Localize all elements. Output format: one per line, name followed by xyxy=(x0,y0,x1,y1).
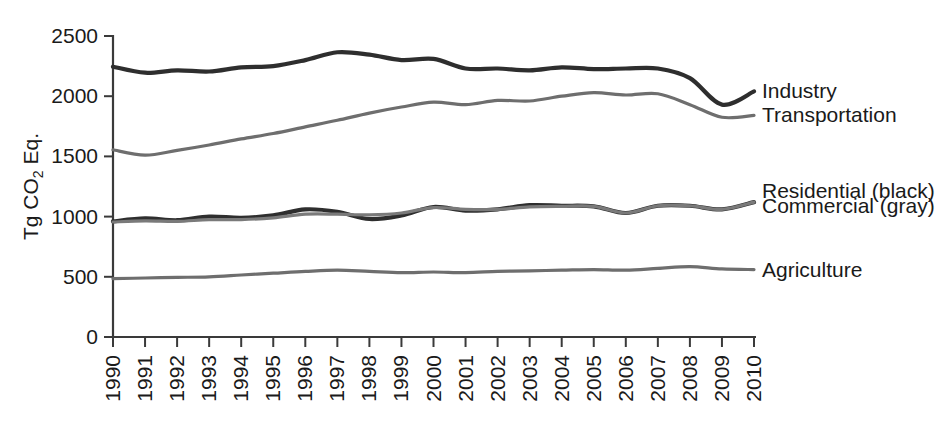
y-axis-title-suffix: Eq. xyxy=(19,133,42,170)
emissions-line-chart: 05001000150020002500 1990199119921993199… xyxy=(0,0,948,426)
series-label: Industry xyxy=(762,79,837,102)
chart-canvas: 05001000150020002500 1990199119921993199… xyxy=(0,0,948,426)
x-tick-label: 1994 xyxy=(229,355,252,402)
y-tick-label: 1000 xyxy=(51,205,98,228)
y-tick-label: 500 xyxy=(63,265,98,288)
x-tick-label: 2009 xyxy=(710,355,733,402)
series-label: Commercial (gray) xyxy=(762,194,935,217)
data-series-group xyxy=(113,52,754,279)
x-tick-label: 2006 xyxy=(614,355,637,402)
series-label: Transportation xyxy=(762,103,897,126)
y-axis-title-text: Tg CO2 Eq. xyxy=(19,133,46,240)
y-axis: 05001000150020002500 xyxy=(51,24,113,348)
x-tick-label: 2005 xyxy=(582,355,605,402)
y-axis-title: Tg CO2 Eq. xyxy=(19,133,46,240)
series-labels-group: IndustryTransportationResidential (black… xyxy=(762,79,935,281)
x-tick-label: 1995 xyxy=(261,355,284,402)
x-tick-label: 1992 xyxy=(165,355,188,402)
y-tick-label: 2500 xyxy=(51,24,98,47)
series-label: Agriculture xyxy=(762,258,862,281)
x-tick-label: 1990 xyxy=(101,355,124,402)
x-tick-label: 2004 xyxy=(550,355,573,402)
x-tick-label: 1993 xyxy=(197,355,220,402)
x-tick-label: 1997 xyxy=(325,355,348,402)
x-tick-label: 2003 xyxy=(518,355,541,402)
x-tick-label: 2007 xyxy=(646,355,669,402)
x-axis: 1990199119921993199419951996199719981999… xyxy=(101,337,765,402)
x-tick-label: 2002 xyxy=(486,355,509,402)
series-line-agriculture xyxy=(113,267,754,279)
series-line-transportation xyxy=(113,93,754,156)
y-axis-title-prefix: Tg CO xyxy=(19,178,42,240)
y-tick-label: 1500 xyxy=(51,144,98,167)
x-tick-label: 2008 xyxy=(678,355,701,402)
y-axis-title-subscript: 2 xyxy=(30,170,46,178)
x-tick-label: 2010 xyxy=(742,355,765,402)
x-tick-label: 1998 xyxy=(357,355,380,402)
x-tick-label: 1999 xyxy=(389,355,412,402)
series-line-industry xyxy=(113,52,754,105)
x-tick-label: 2001 xyxy=(454,355,477,402)
x-tick-label: 1996 xyxy=(293,355,316,402)
y-tick-label: 0 xyxy=(86,325,98,348)
x-tick-label: 2000 xyxy=(422,355,445,402)
y-tick-label: 2000 xyxy=(51,84,98,107)
x-tick-label: 1991 xyxy=(133,355,156,402)
